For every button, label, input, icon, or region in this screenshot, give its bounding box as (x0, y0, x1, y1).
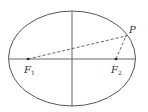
label-f2: F2 (110, 64, 122, 76)
label-f1: F1 (23, 64, 35, 76)
segment-f1-p (28, 36, 126, 59)
focus-f2-point (115, 58, 118, 61)
segment-f2-p (116, 36, 126, 59)
focus-f1-point (27, 58, 30, 61)
ellipse-diagram: F1 F2 P (0, 0, 148, 112)
point-p (125, 35, 127, 37)
label-p: P (128, 24, 136, 35)
